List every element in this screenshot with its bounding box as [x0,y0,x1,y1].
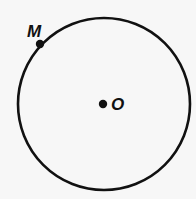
point-m-dot [36,40,44,48]
diagram-canvas: MO [0,0,196,199]
circle-diagram: MO [0,0,196,199]
point-m-label: M [27,22,42,41]
point-o-label: O [111,95,124,114]
point-o-dot [99,100,107,108]
